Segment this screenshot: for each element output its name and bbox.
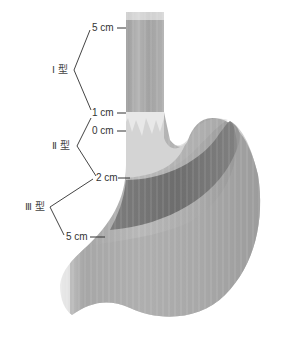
marker-label-2cm: 2 cm [96,173,118,183]
anatomy-illustration [0,0,287,350]
type-label-1: Ⅰ 型 [52,65,68,75]
bracket-type-3 [50,179,93,235]
marker-label-5cm-bottom: 5 cm [66,232,88,242]
fade-edge [52,262,70,322]
marker-label-1cm: 1 cm [92,108,114,118]
esophagus [126,12,164,112]
type-label-3: Ⅲ 型 [25,202,45,212]
marker-label-5cm-top: 5 cm [92,23,114,33]
type-label-2: Ⅱ 型 [52,141,70,151]
brackets [50,30,96,235]
bracket-type-1 [74,30,91,110]
marker-label-0cm: 0 cm [92,126,114,136]
